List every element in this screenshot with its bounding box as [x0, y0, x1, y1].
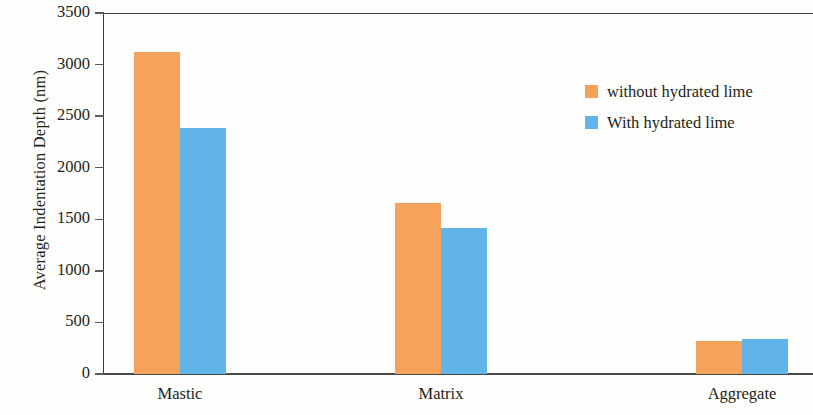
bar-mastic-series-0: [134, 52, 180, 374]
bar-chart: Average Indentation Depth (nm) 050010001…: [0, 0, 813, 415]
bar-matrix-series-1: [441, 228, 487, 374]
x-axis-label-aggregate: Aggregate: [662, 384, 813, 404]
bar-matrix-series-0: [395, 203, 441, 374]
bar-mastic-series-1: [180, 128, 226, 374]
legend-item: With hydrated lime: [585, 107, 753, 138]
legend-swatch-icon: [585, 116, 598, 129]
chart-legend: without hydrated limeWith hydrated lime: [585, 76, 753, 138]
x-axis-label-matrix: Matrix: [361, 384, 521, 404]
legend-swatch-icon: [585, 85, 598, 98]
legend-label: With hydrated lime: [607, 113, 735, 133]
bar-aggregate-series-1: [742, 339, 788, 374]
bars-layer: [0, 0, 813, 415]
legend-label: without hydrated lime: [607, 82, 753, 102]
x-axis-label-mastic: Mastic: [100, 384, 260, 404]
legend-item: without hydrated lime: [585, 76, 753, 107]
bar-aggregate-series-0: [696, 341, 742, 374]
